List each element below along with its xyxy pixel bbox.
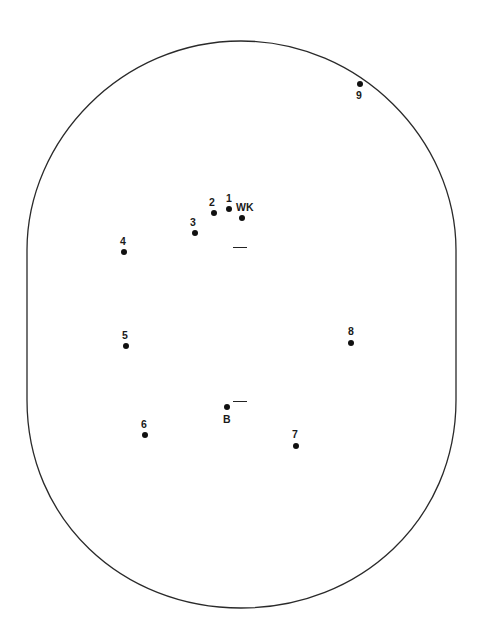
fielder-marker-icon xyxy=(293,443,299,449)
fielder-label: 3 xyxy=(190,217,196,228)
fielder-label: 7 xyxy=(292,429,298,440)
fielder-marker-icon xyxy=(239,215,245,221)
fielder-label: 9 xyxy=(356,90,362,101)
fielder-label: 8 xyxy=(348,326,354,337)
bowler-end-crease xyxy=(233,401,247,402)
fielder-label: 2 xyxy=(209,197,215,208)
wicketkeeper-end-crease xyxy=(233,247,247,248)
fielder-marker-icon xyxy=(192,230,198,236)
fielder-marker-icon xyxy=(142,432,148,438)
fielder-marker-icon xyxy=(348,340,354,346)
fielder-label: 4 xyxy=(120,236,126,247)
fielder-marker-icon xyxy=(121,249,127,255)
fielder-marker-icon xyxy=(226,206,232,212)
fielder-marker-icon xyxy=(224,404,230,410)
boundary-line xyxy=(27,41,456,608)
fielder-label: 1 xyxy=(226,193,232,204)
fielder-label: WK xyxy=(236,202,254,213)
cricket-field xyxy=(0,0,484,639)
fielder-label: B xyxy=(223,414,231,425)
fielder-label: 5 xyxy=(122,330,128,341)
fielder-marker-icon xyxy=(211,210,217,216)
fielder-marker-icon xyxy=(123,343,129,349)
fielder-label: 6 xyxy=(141,419,147,430)
fielder-marker-icon xyxy=(357,81,363,87)
